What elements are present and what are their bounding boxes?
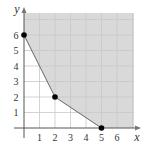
y-axis-arrow-icon: [22, 7, 27, 13]
y-tick-3: 3: [14, 76, 19, 87]
y-tick-5: 5: [14, 45, 19, 56]
feasible-region-chart: 1 2 3 4 5 6 x 1 2 3 4 5 6 y: [0, 0, 146, 146]
y-tick-1: 1: [14, 107, 19, 118]
y-tick-4: 4: [14, 61, 19, 72]
x-axis-label: x: [133, 130, 140, 144]
shaded-region: [24, 13, 134, 128]
x-tick-1: 1: [37, 132, 42, 143]
x-tick-4: 4: [84, 132, 89, 143]
x-tick-6: 6: [115, 132, 120, 143]
point-2-2: [52, 94, 58, 100]
point-0-6: [21, 32, 27, 38]
x-tick-3: 3: [68, 132, 73, 143]
y-tick-6: 6: [14, 30, 19, 41]
y-axis-label: y: [13, 2, 20, 16]
x-tick-5: 5: [99, 132, 104, 143]
point-5-0: [99, 125, 105, 131]
x-tick-2: 2: [53, 132, 58, 143]
y-tick-2: 2: [14, 92, 19, 103]
